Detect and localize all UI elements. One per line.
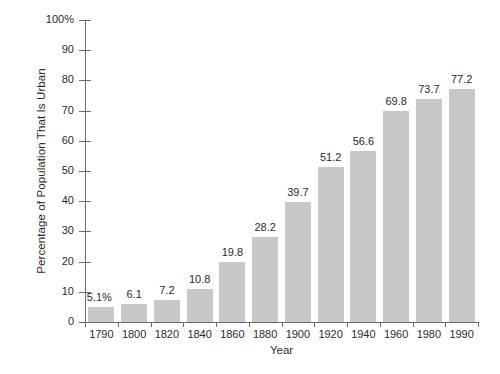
x-axis-tick [314, 322, 315, 327]
bar [88, 307, 114, 322]
bar [416, 99, 442, 322]
bar [252, 237, 278, 322]
y-axis-tick [79, 111, 91, 112]
y-axis-tick-label-wrap: 0 [0, 315, 74, 329]
x-axis-tick [347, 322, 348, 327]
x-axis-tick [380, 322, 381, 327]
y-axis-tick [79, 141, 91, 142]
y-axis-tick-label: 20 [0, 255, 74, 267]
y-axis-tick-label: 60 [0, 134, 74, 146]
y-axis-tick [79, 50, 91, 51]
bar-value-label: 51.2 [305, 151, 357, 163]
y-axis-tick-label-wrap: 90 [0, 43, 74, 57]
bar [154, 300, 180, 322]
bar [285, 202, 311, 322]
y-axis-tick [79, 80, 91, 81]
y-axis-tick-label: 30 [0, 224, 74, 236]
x-axis-tick-label: 1990 [442, 328, 482, 340]
bar [121, 304, 147, 322]
y-axis-tick-label: 40 [0, 194, 74, 206]
bar [318, 167, 344, 322]
y-axis-tick [79, 20, 91, 21]
x-axis-tick [445, 322, 446, 327]
bar-value-label: 28.2 [239, 221, 291, 233]
y-axis-tick-label: 80 [0, 73, 74, 85]
x-axis-tick [85, 322, 86, 327]
y-axis-tick-label: 0 [0, 315, 74, 327]
y-axis-tick-label: 70 [0, 104, 74, 116]
y-axis-tick-label: 90 [0, 43, 74, 55]
y-axis-tick [79, 231, 91, 232]
y-axis-tick-label-wrap: 10 [0, 285, 74, 299]
x-axis-tick [413, 322, 414, 327]
y-axis-tick [79, 171, 91, 172]
y-axis-tick-label-wrap: 80 [0, 73, 74, 87]
y-axis-tick-label-wrap: 60 [0, 134, 74, 148]
y-axis-tick-label-wrap: 100% [0, 13, 74, 27]
bar-chart: Percentage of Population That Is Urban Y… [0, 0, 500, 374]
bar [187, 289, 213, 322]
y-axis-tick-label-wrap: 30 [0, 224, 74, 238]
y-axis-tick-label: 50 [0, 164, 74, 176]
bar-value-label: 73.7 [403, 83, 455, 95]
x-axis-title: Year [85, 344, 478, 356]
bar [219, 262, 245, 322]
x-axis-tick [216, 322, 217, 327]
bar [449, 89, 475, 322]
bar-value-label: 19.8 [206, 246, 258, 258]
y-axis-tick-label-wrap: 70 [0, 104, 74, 118]
bar [383, 111, 409, 322]
x-axis-tick [118, 322, 119, 327]
y-axis-tick-label: 100% [0, 13, 74, 25]
x-axis-tick [249, 322, 250, 327]
bar-value-label: 7.2 [141, 284, 193, 296]
y-axis-tick-label-wrap: 20 [0, 255, 74, 269]
bar-value-label: 77.2 [436, 73, 488, 85]
bar [350, 151, 376, 322]
y-axis-tick-label-wrap: 50 [0, 164, 74, 178]
x-axis-tick [282, 322, 283, 327]
x-axis-tick [478, 322, 479, 327]
y-axis-tick [79, 201, 91, 202]
bar-value-label: 56.6 [337, 135, 389, 147]
bar-value-label: 39.7 [272, 186, 324, 198]
x-axis-tick [183, 322, 184, 327]
bar-value-label: 69.8 [370, 95, 422, 107]
x-axis-tick [151, 322, 152, 327]
y-axis-tick-label: 10 [0, 285, 74, 297]
bar-value-label: 10.8 [174, 273, 226, 285]
y-axis-tick-label-wrap: 40 [0, 194, 74, 208]
y-axis-tick [79, 262, 91, 263]
